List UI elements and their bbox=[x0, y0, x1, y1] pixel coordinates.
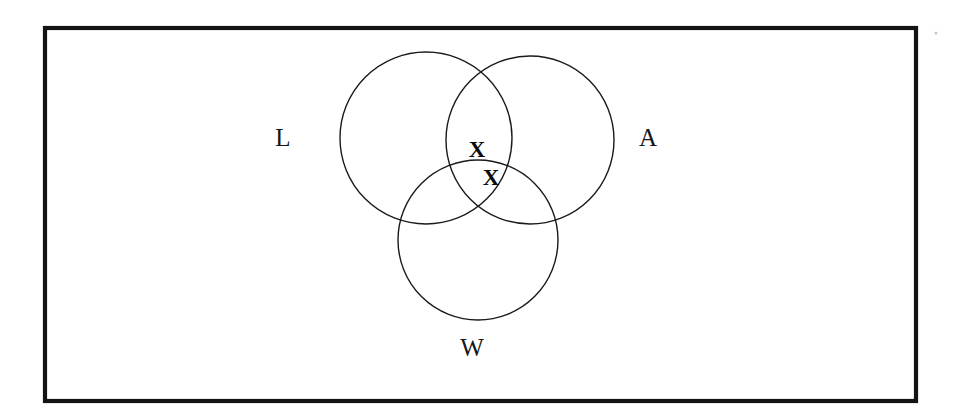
set-circle-W bbox=[398, 160, 558, 320]
set-label-W: W bbox=[460, 334, 484, 361]
region-mark-x-center: X bbox=[483, 165, 500, 190]
set-label-A: A bbox=[639, 124, 657, 151]
venn-diagram-page: L A W X X bbox=[0, 0, 962, 415]
venn-diagram-canvas: L A W X X bbox=[0, 0, 962, 415]
scan-speck-artifact bbox=[934, 31, 937, 34]
set-label-L: L bbox=[275, 124, 290, 151]
region-mark-x-upper: X bbox=[469, 137, 486, 162]
set-circle-L bbox=[340, 52, 512, 224]
